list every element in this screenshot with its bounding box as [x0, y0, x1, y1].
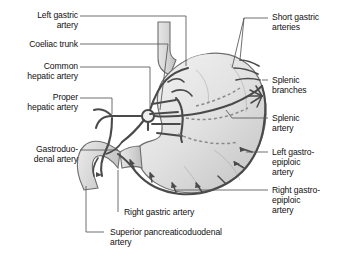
label-superior-pancreaticoduodenal-artery: Superior pancreaticoduodenal artery [110, 227, 290, 247]
hepatic-branch-upper [94, 109, 112, 116]
label-left-gastric-artery: Left gastric artery [4, 10, 78, 30]
label-left-gastroepiploic-artery: Left gastro- epiploic artery [272, 147, 346, 178]
label-proper-hepatic-artery: Proper hepatic artery [4, 92, 78, 112]
oesophagus [158, 22, 176, 75]
leader-superior-pancreaticoduodenal [86, 186, 104, 232]
figure-canvas: Left gastric artery Coeliac trunk Common… [0, 0, 348, 255]
label-short-gastric-arteries: Short gastric arteries [272, 12, 346, 32]
stomach-body [137, 53, 266, 193]
duodenum [77, 141, 120, 190]
label-splenic-branches: Splenic branches [272, 75, 346, 95]
proper-hepatic-artery-vessel [96, 116, 112, 128]
label-common-hepatic-artery: Common hepatic artery [4, 61, 78, 81]
label-right-gastroepiploic-artery: Right gastro- epiploic artery [272, 185, 346, 216]
leader-short-gastric-2 [240, 18, 244, 60]
right-gastric-artery-vessel [122, 120, 144, 142]
label-coeliac-trunk: Coeliac trunk [4, 39, 78, 49]
organ-group [77, 22, 266, 193]
leader-common-hepatic [80, 67, 150, 108]
label-gastroduodenal-artery: Gastroduo- denal artery [4, 144, 78, 164]
label-right-gastric-artery: Right gastric artery [124, 207, 264, 217]
label-splenic-artery: Splenic artery [272, 113, 346, 133]
